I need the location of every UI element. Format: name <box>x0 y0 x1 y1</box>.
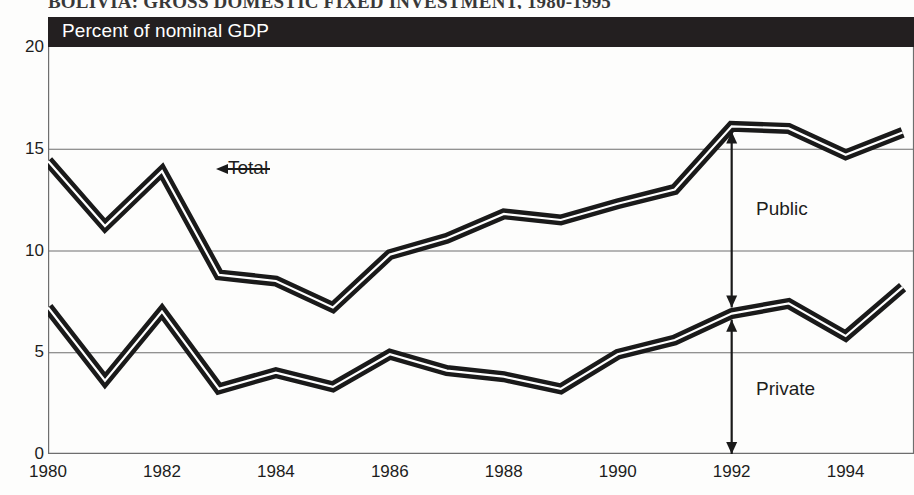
y-axis-tick-label: 20 <box>4 37 44 57</box>
y-axis-tick-label: 5 <box>4 342 44 362</box>
public-span-arrow <box>726 131 737 307</box>
x-axis-tick-label: 1990 <box>583 462 653 482</box>
y-axis-tick-label: 15 <box>4 139 44 159</box>
private-span-arrow <box>726 320 737 454</box>
x-axis-tick-label: 1982 <box>127 462 197 482</box>
units-banner: Percent of nominal GDP <box>48 17 914 47</box>
x-axis-tick-label: 1986 <box>355 462 425 482</box>
annotation-private: Private <box>756 378 815 400</box>
y-axis-tick-label: 0 <box>4 444 44 464</box>
units-banner-label: Percent of nominal GDP <box>62 20 269 42</box>
series-private <box>48 287 903 389</box>
x-axis-tick-label: 1994 <box>811 462 881 482</box>
x-axis-tick-label: 1984 <box>241 462 311 482</box>
x-axis-tick-label: 1988 <box>469 462 539 482</box>
figure-title: BOLIVIA: GROSS DOMESTIC FIXED INVESTMENT… <box>48 0 868 9</box>
x-axis-labels: 19801982198419861988199019921994 <box>0 462 914 490</box>
y-axis-labels: 05101520 <box>0 0 44 495</box>
x-axis-tick-label: 1992 <box>697 462 767 482</box>
annotation-public: Public <box>756 198 808 220</box>
y-axis-tick-label: 10 <box>4 241 44 261</box>
annotation-total: Total <box>228 157 268 179</box>
x-axis-tick-label: 1980 <box>13 462 83 482</box>
chart-figure: BOLIVIA: GROSS DOMESTIC FIXED INVESTMENT… <box>0 0 914 495</box>
